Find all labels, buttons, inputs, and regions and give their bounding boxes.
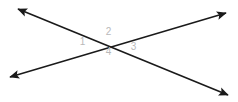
angle-label-4: 4 <box>104 47 113 57</box>
angle-label-3: 3 <box>129 42 138 52</box>
angle-label-1: 1 <box>78 37 87 47</box>
intersecting-lines-canvas <box>0 0 238 102</box>
geometry-figure: 1 2 3 4 <box>0 0 238 102</box>
angle-label-2: 2 <box>104 27 113 37</box>
